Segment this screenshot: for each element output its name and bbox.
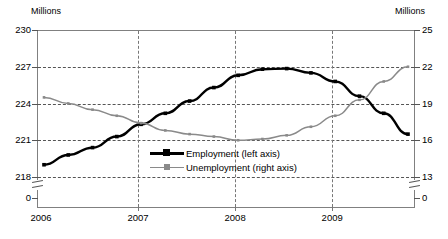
- left-tick-0: [32, 198, 38, 199]
- data-point-unemployment-2008Q4: [310, 125, 313, 128]
- right-tick-label-16: 16: [422, 134, 446, 145]
- left-tick-label-224: 224: [3, 98, 31, 109]
- right-tick-0: [414, 198, 420, 199]
- left-tick-label-221: 221: [3, 134, 31, 145]
- gridline-y-221: [38, 140, 414, 141]
- right-tick-22: [414, 67, 420, 68]
- right-tick-25: [414, 30, 420, 31]
- data-point-unemployment-2009Q2: [358, 99, 361, 102]
- data-point-unemployment-2007Q3: [188, 133, 191, 136]
- left-tick-230: [32, 30, 38, 31]
- gridline-y-227: [38, 67, 414, 68]
- left-tick-label-218: 218: [3, 171, 31, 182]
- data-point-unemployment-2008Q3: [285, 134, 288, 137]
- left-tick-label-0: 0: [3, 192, 31, 203]
- x-tick-2008: [235, 207, 236, 211]
- data-point-employment-2009Q2: [358, 94, 362, 98]
- right-axis-unit-label: Millions: [395, 6, 425, 16]
- left-tick-218: [32, 177, 38, 178]
- chart-legend: Employment (left axis) Unemployment (rig…: [150, 146, 297, 174]
- data-point-unemployment-2009Q1: [334, 114, 337, 117]
- x-tick-label-2009: 2009: [312, 212, 352, 223]
- gridline-x-2007: [138, 31, 139, 207]
- employment-unemployment-chart: Millions Millions 2302272242212180 25221…: [0, 0, 448, 239]
- left-axis-unit-label: Millions: [31, 6, 61, 16]
- right-tick-label-0: 0: [422, 192, 446, 203]
- right-tick-16: [414, 140, 420, 141]
- left-tick-224: [32, 104, 38, 105]
- data-point-employment-2007Q4: [212, 86, 216, 90]
- data-point-employment-2009Q1: [333, 80, 337, 84]
- data-point-unemployment-2009Q3: [382, 80, 385, 83]
- data-point-unemployment-2006Q4: [116, 114, 119, 117]
- gridline-x-2008: [235, 31, 236, 207]
- data-point-unemployment-2006Q1: [43, 96, 46, 99]
- left-axis-break-mark-1: [32, 180, 43, 183]
- legend-label-employment: Employment (left axis): [186, 148, 280, 159]
- data-point-employment-2008Q2: [261, 67, 265, 71]
- legend-label-unemployment: Unemployment (right axis): [186, 162, 297, 173]
- data-point-unemployment-2007Q2: [164, 129, 167, 132]
- left-tick-227: [32, 67, 38, 68]
- x-tick-2007: [138, 207, 139, 211]
- data-point-unemployment-2006Q3: [91, 108, 94, 111]
- left-axis-line-upper: [37, 30, 38, 180]
- left-tick-221: [32, 140, 38, 141]
- series-plot: [0, 0, 448, 239]
- data-point-employment-2006Q1: [42, 163, 46, 167]
- gridline-y-224: [38, 104, 414, 105]
- right-tick-13: [414, 177, 420, 178]
- legend-item-employment: Employment (left axis): [150, 146, 297, 160]
- left-axis-break-mark-2: [32, 185, 43, 188]
- data-point-employment-2007Q2: [164, 112, 168, 116]
- right-tick-label-25: 25: [422, 24, 446, 35]
- data-point-employment-2006Q4: [115, 135, 119, 139]
- left-axis-line-lower: [37, 190, 38, 208]
- legend-line-swatch-employment: [150, 148, 184, 158]
- gridline-y-218: [38, 177, 414, 178]
- left-tick-label-227: 227: [3, 61, 31, 72]
- legend-line-swatch-unemployment: [150, 162, 184, 172]
- x-tick-label-2007: 2007: [118, 212, 158, 223]
- right-tick-label-13: 13: [422, 171, 446, 182]
- legend-item-unemployment: Unemployment (right axis): [150, 160, 297, 174]
- data-point-employment-2009Q3: [382, 112, 386, 116]
- right-tick-label-19: 19: [422, 98, 446, 109]
- right-axis-line-lower: [414, 190, 415, 208]
- data-point-employment-2006Q3: [91, 146, 95, 150]
- x-axis-line: [38, 207, 415, 208]
- right-tick-label-22: 22: [422, 61, 446, 72]
- data-point-unemployment-2007Q1: [140, 122, 143, 125]
- data-point-employment-2008Q1: [236, 74, 240, 78]
- data-point-employment-2009Q4: [406, 132, 410, 136]
- x-tick-label-2006: 2006: [21, 212, 61, 223]
- right-axis-line-upper: [414, 30, 415, 180]
- data-point-unemployment-2007Q4: [213, 135, 216, 138]
- x-tick-2009: [332, 207, 333, 211]
- right-axis-break-mark-1: [409, 180, 420, 183]
- data-point-employment-2007Q1: [139, 123, 143, 127]
- x-tick-label-2008: 2008: [215, 212, 255, 223]
- data-point-employment-2008Q4: [309, 71, 313, 75]
- left-tick-label-230: 230: [3, 24, 31, 35]
- right-axis-break-mark-2: [409, 185, 420, 188]
- gridline-x-2009: [332, 31, 333, 207]
- data-point-employment-2007Q3: [188, 99, 192, 103]
- data-point-employment-2006Q2: [66, 153, 70, 157]
- gridline-y-230: [38, 30, 414, 31]
- right-tick-19: [414, 104, 420, 105]
